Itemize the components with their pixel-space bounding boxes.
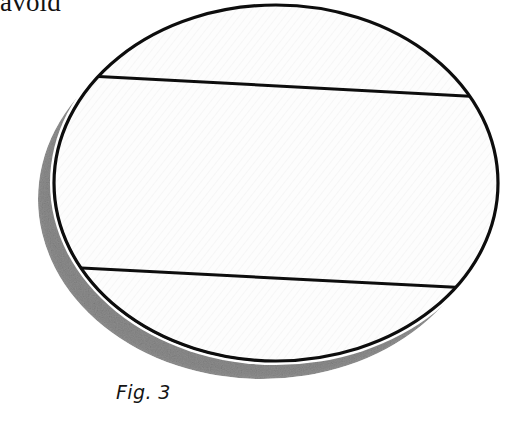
figure-caption: Fig. 3 (116, 381, 171, 403)
ellipse-body-wash (54, 5, 498, 361)
figure-3-illustration (0, 0, 522, 421)
ellipse-drawing-svg (0, 0, 522, 421)
illustration-page: avoid (0, 0, 522, 421)
